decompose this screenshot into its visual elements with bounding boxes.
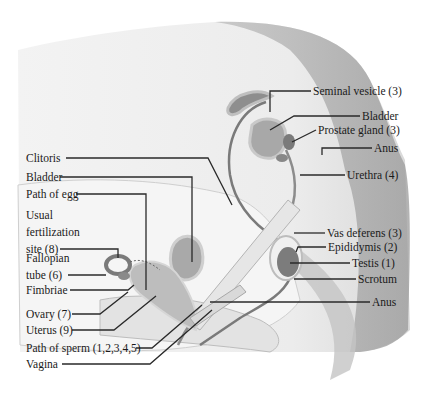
- label-anus-female: Anus: [372, 296, 397, 308]
- label-ovary: Ovary (7): [26, 308, 71, 321]
- label-vas-deferens: Vas deferens (3): [327, 227, 402, 240]
- label-fallopian-line2: tube (6): [26, 269, 62, 282]
- label-seminal-vesicle: Seminal vesicle (3): [313, 85, 402, 98]
- label-path-of-sperm: Path of sperm (1,2,3,4,5): [26, 342, 141, 355]
- prostate-lower: [276, 154, 288, 162]
- label-prostate-gland: Prostate gland (3): [318, 124, 400, 137]
- label-urethra: Urethra (4): [347, 169, 399, 182]
- label-fimbriae: Fimbriae: [26, 284, 68, 296]
- label-bladder-female: Bladder: [26, 171, 63, 183]
- label-epididymis: Epididymis (2): [328, 241, 397, 254]
- label-testis: Testis (1): [352, 257, 395, 270]
- label-bladder-male: Bladder: [362, 110, 399, 122]
- label-fertilization-line2: fertilization: [26, 226, 80, 238]
- ovary: [118, 272, 130, 280]
- label-vagina: Vagina: [26, 358, 58, 371]
- label-anus-male: Anus: [374, 142, 399, 154]
- label-scrotum: Scrotum: [358, 273, 397, 285]
- label-uterus: Uterus (9): [26, 324, 73, 337]
- reproduction-diagram: Clitoris Bladder Path of egg Usual ferti…: [0, 0, 422, 403]
- label-clitoris: Clitoris: [26, 152, 61, 164]
- label-fallopian-line1: Fallopian: [26, 252, 70, 265]
- male-bladder: [250, 119, 286, 158]
- anatomy-illustration: Clitoris Bladder Path of egg Usual ferti…: [0, 0, 422, 403]
- label-fertilization-line1: Usual: [26, 209, 53, 221]
- label-path-of-egg: Path of egg: [26, 188, 79, 201]
